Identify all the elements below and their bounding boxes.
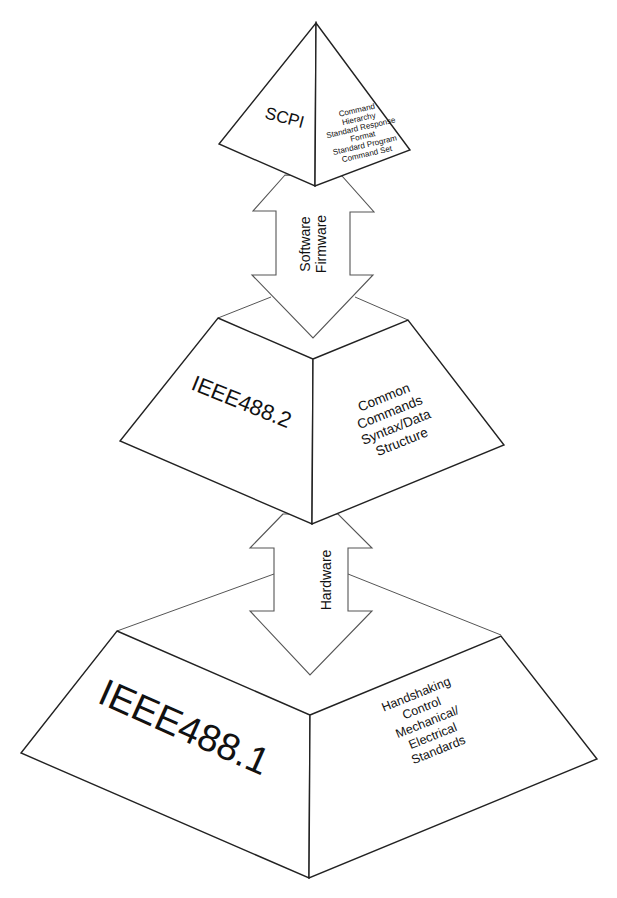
pyramid-diagram: Hardware IEEE488.1 Handshaking Control M… [0,0,617,898]
layer-ieee488-2-faces: IEEE488.2 Common Commands Syntax/Data St… [120,318,504,524]
connector-label-software: Software [297,216,313,271]
software-firmware-arrow: Software Firmware [252,175,374,338]
layer-scpi: SCPI Command Hierarchy Standard Response… [219,23,410,186]
back-edge-left [117,574,274,631]
back-edge-left [218,297,271,318]
back-edge-right [348,574,501,635]
back-edge-right [355,297,408,320]
hardware-arrow: Hardware [250,514,372,675]
connector-label-hardware: Hardware [318,549,334,610]
face-right-ieee488-1 [309,636,597,878]
connector-label-firmware: Firmware [313,215,329,274]
double-arrow-icon [250,514,372,675]
